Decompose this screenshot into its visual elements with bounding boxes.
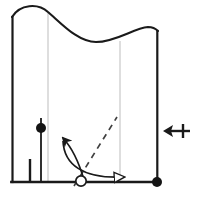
open-node-base (76, 176, 86, 186)
physics-diagram-figure (0, 0, 200, 199)
diagram-root (0, 0, 200, 199)
filled-node-left (36, 123, 46, 133)
filled-node-corner (152, 177, 162, 187)
